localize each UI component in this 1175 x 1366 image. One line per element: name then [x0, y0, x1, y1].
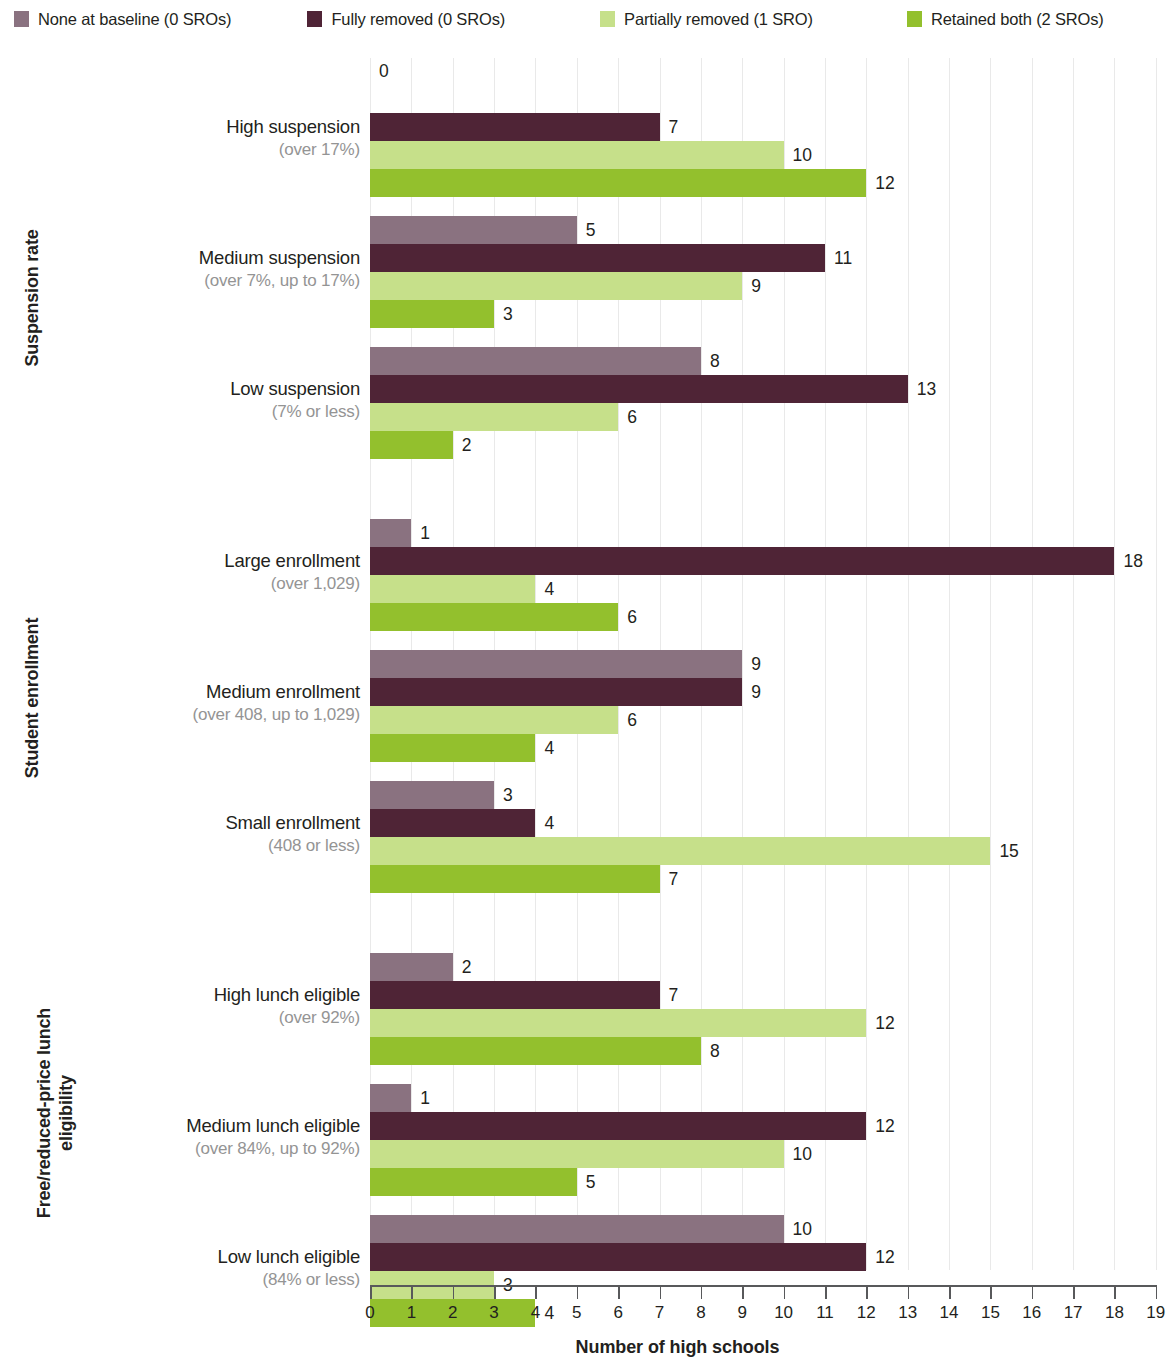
x-axis-tick-label: 15 — [970, 1303, 1010, 1323]
x-axis-tick — [535, 1285, 537, 1299]
bar-track: 7 — [370, 113, 1156, 141]
bar-track: 10 — [370, 1140, 1156, 1168]
x-axis-tick — [660, 1285, 662, 1299]
bar-value-label: 4 — [535, 738, 554, 759]
x-axis-tick — [701, 1285, 703, 1299]
bar[interactable] — [370, 547, 1114, 575]
chart-legend: None at baseline (0 SROs) Fully removed … — [14, 6, 1164, 32]
bar-track: 15 — [370, 837, 1156, 865]
bar-track: 12 — [370, 169, 1156, 197]
bar-value-label: 12 — [866, 1116, 894, 1137]
bar[interactable] — [370, 347, 701, 375]
bar[interactable] — [370, 1084, 411, 1112]
legend-item-partially-removed: Partially removed (1 SRO) — [600, 10, 813, 29]
bar-value-label: 12 — [866, 173, 894, 194]
bar[interactable] — [370, 809, 535, 837]
bar-value-label: 8 — [701, 1041, 720, 1062]
bar-track: 1 — [370, 519, 1156, 547]
category-label-main: Medium lunch eligible — [60, 1115, 360, 1138]
bar-value-label: 12 — [866, 1013, 894, 1034]
x-axis-tick-label: 19 — [1136, 1303, 1175, 1323]
bar[interactable] — [370, 244, 825, 272]
bar[interactable] — [370, 603, 618, 631]
bar-track: 12 — [370, 1243, 1156, 1271]
x-axis-tick — [949, 1285, 951, 1299]
bar[interactable] — [370, 113, 660, 141]
bar[interactable] — [370, 300, 494, 328]
bar[interactable] — [370, 678, 742, 706]
bar-track: 2 — [370, 431, 1156, 459]
bar[interactable] — [370, 865, 660, 893]
bar[interactable] — [370, 272, 742, 300]
bar-value-label: 2 — [453, 435, 472, 456]
bar-track: 6 — [370, 603, 1156, 631]
bar-value-label: 9 — [742, 682, 761, 703]
x-axis-tick — [453, 1285, 455, 1299]
bar-value-label: 10 — [784, 1219, 812, 1240]
category-label: Medium lunch eligible(over 84%, up to 92… — [60, 1115, 360, 1159]
chart-group-row: Medium lunch eligible(over 84%, up to 92… — [0, 1084, 1175, 1196]
x-axis-tick — [866, 1285, 868, 1299]
bar[interactable] — [370, 575, 535, 603]
bar[interactable] — [370, 141, 784, 169]
bar[interactable] — [370, 781, 494, 809]
bar-chart-plot-area: Suspension rate Student enrollment Free/… — [0, 58, 1175, 1258]
x-axis-tick-label: 9 — [722, 1303, 762, 1323]
bar[interactable] — [370, 1168, 577, 1196]
category-label-main: Medium suspension — [60, 247, 360, 270]
bar[interactable] — [370, 519, 411, 547]
x-axis-title: Number of high schools — [0, 1337, 1175, 1358]
x-axis-tick-label: 4 — [515, 1303, 555, 1323]
x-axis-tick-label: 11 — [805, 1303, 845, 1323]
category-label-main: High suspension — [60, 116, 360, 139]
bar-track: 9 — [370, 650, 1156, 678]
bar[interactable] — [370, 734, 535, 762]
bar[interactable] — [370, 403, 618, 431]
bar[interactable] — [370, 837, 990, 865]
chart-group-row: High suspension(over 17%)071012 — [0, 85, 1175, 197]
bar[interactable] — [370, 1243, 866, 1271]
x-axis-tick — [1073, 1285, 1075, 1299]
bar[interactable] — [370, 1037, 701, 1065]
bar-track: 6 — [370, 403, 1156, 431]
bar[interactable] — [370, 650, 742, 678]
bar-value-label: 13 — [908, 379, 936, 400]
bar[interactable] — [370, 1215, 784, 1243]
bar[interactable] — [370, 706, 618, 734]
bar[interactable] — [370, 1009, 866, 1037]
legend-label-retained-both: Retained both (2 SROs) — [931, 10, 1104, 29]
bar-track: 1 — [370, 1084, 1156, 1112]
bar[interactable] — [370, 216, 577, 244]
legend-label-partially-removed: Partially removed (1 SRO) — [624, 10, 813, 29]
bar-track: 5 — [370, 1168, 1156, 1196]
bar[interactable] — [370, 1140, 784, 1168]
chart-group-row: Medium suspension(over 7%, up to 17%)511… — [0, 216, 1175, 328]
bar[interactable] — [370, 981, 660, 1009]
bar[interactable] — [370, 169, 866, 197]
chart-group-row: Small enrollment(408 or less)34157 — [0, 781, 1175, 893]
x-axis-tick-label: 13 — [888, 1303, 928, 1323]
bar-value-label: 5 — [577, 1172, 596, 1193]
bar[interactable] — [370, 431, 453, 459]
bar-track: 0 — [370, 85, 1156, 113]
bar[interactable] — [370, 375, 908, 403]
legend-swatch-partially-removed — [600, 11, 615, 27]
legend-item-fully-removed: Fully removed (0 SROs) — [307, 10, 505, 29]
category-label-main: Medium enrollment — [60, 681, 360, 704]
category-label: High suspension(over 17%) — [60, 116, 360, 160]
bar-value-label: 10 — [784, 145, 812, 166]
bar-track: 4 — [370, 734, 1156, 762]
category-label-main: Small enrollment — [60, 812, 360, 835]
legend-swatch-retained-both — [907, 11, 922, 27]
chart-group-row: High lunch eligible(over 92%)27128 — [0, 953, 1175, 1065]
bar-track: 10 — [370, 1215, 1156, 1243]
x-axis-tick-label: 16 — [1012, 1303, 1052, 1323]
bar[interactable] — [370, 1112, 866, 1140]
category-label-sub: (7% or less) — [60, 401, 360, 422]
x-axis: 012345678910111213141516171819 — [370, 1285, 1157, 1287]
bar-track: 2 — [370, 953, 1156, 981]
bar-value-label: 8 — [701, 351, 720, 372]
category-label-main: Large enrollment — [60, 550, 360, 573]
bar-track: 12 — [370, 1112, 1156, 1140]
bar[interactable] — [370, 953, 453, 981]
